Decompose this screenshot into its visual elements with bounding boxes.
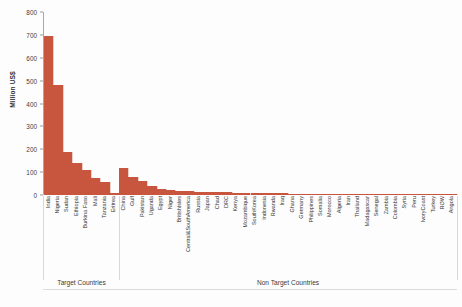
group-separator (457, 196, 458, 280)
x-tick-label: DRC (224, 196, 230, 208)
x-label-slot: Rwanda (269, 196, 278, 264)
x-tick-label: Kenya (234, 196, 240, 212)
x-label-slot: Russia (194, 196, 203, 264)
x-tick-label: Zambia (384, 196, 390, 214)
x-tick-label: Indonesia (262, 196, 268, 220)
x-tick-label: Germany (299, 196, 305, 219)
x-tick-label: Mali (93, 196, 99, 206)
x-tick-label: Syria (403, 196, 409, 209)
y-tick-label: 700 (26, 31, 37, 38)
x-label-slot: Gulf (128, 196, 137, 264)
x-tick-label: Uganda (149, 196, 155, 215)
x-tick-label: Pakistan (140, 196, 146, 217)
x-tick-label: Iran (346, 196, 352, 205)
x-tick-label: Ethiopia (74, 196, 80, 216)
x-tick-label: Sudan (65, 196, 71, 212)
x-label-slot: Peru (410, 196, 419, 264)
x-label-slot: Tanzania (100, 196, 109, 264)
group-underline (43, 289, 457, 290)
y-axis-title: Million US$ (9, 60, 16, 120)
x-label-slot: Thailand (354, 196, 363, 264)
group-label: Non Target Countries (257, 279, 319, 286)
x-label-slot: Senegal (373, 196, 382, 264)
x-label-slot: IvoryCoast (419, 196, 428, 264)
x-label-slot: Mozambique (241, 196, 250, 264)
x-tick-label: Mozambique (243, 196, 249, 228)
x-tick-label: Tanzania (102, 196, 108, 218)
y-tick-label: 500 (26, 77, 37, 84)
x-label-slot: ROW (438, 196, 447, 264)
x-tick-label: Rwanda (271, 196, 277, 216)
x-tick-label: Ghana (290, 196, 296, 213)
x-tick-label: Niger (168, 196, 174, 209)
x-label-slot: Algeria (335, 196, 344, 264)
x-label-slot: Egypt (157, 196, 166, 264)
x-label-slot: Iran (344, 196, 353, 264)
x-label-slot: Niger (166, 196, 175, 264)
x-label-slot: Ethiopia (72, 196, 81, 264)
x-tick-label: Turkey (431, 196, 437, 213)
bar (448, 194, 458, 195)
x-tick-label: Iraq (281, 196, 287, 205)
x-tick-label: Angola (450, 196, 456, 213)
x-label-slot: Philippines (307, 196, 316, 264)
x-label-slot: Somalia (316, 196, 325, 264)
x-label-slot: Colombia (391, 196, 400, 264)
plot-area (44, 12, 457, 195)
x-tick-label: ROW (440, 196, 446, 209)
y-tick-label: 200 (26, 146, 37, 153)
x-axis-category-labels: IndiaNigeriaSudanEthiopiaBurkina FasoMal… (44, 196, 457, 264)
x-label-slot: Germany (297, 196, 306, 264)
group-separator (43, 196, 44, 280)
x-label-slot: Turkey (429, 196, 438, 264)
x-tick-label: Japan (206, 196, 212, 211)
x-label-slot: DRC (222, 196, 231, 264)
x-label-slot: Nigeria (53, 196, 62, 264)
x-label-slot: Madagascar (363, 196, 372, 264)
x-tick-label: Colombia (393, 196, 399, 219)
y-tick-label: 0 (33, 192, 37, 199)
y-tick-label: 100 (26, 169, 37, 176)
x-label-slot: Iraq (279, 196, 288, 264)
x-tick-label: India (46, 196, 52, 208)
x-tick-label: Morocco (328, 196, 334, 217)
x-label-slot: Eritrea (110, 196, 119, 264)
x-tick-label: Eritrea (112, 196, 118, 212)
x-tick-label: Burkina Faso (83, 196, 89, 228)
group-label: Target Countries (57, 279, 105, 286)
x-label-slot: Sudan (63, 196, 72, 264)
x-label-slot: Chad (213, 196, 222, 264)
x-tick-label: Madagascar (365, 196, 371, 226)
x-tick-label: China (121, 196, 127, 210)
x-label-slot: Morocco (326, 196, 335, 264)
y-axis-tick-labels: 0100200300400500600700800 (16, 12, 40, 194)
x-tick-label: Chad (215, 196, 221, 209)
x-tick-label: SouthKorea (252, 196, 258, 225)
x-label-slot: Ghana (288, 196, 297, 264)
x-label-slot: Kenya (232, 196, 241, 264)
x-label-slot: Indonesia (260, 196, 269, 264)
x-label-slot: Angola (448, 196, 457, 264)
group-separator (119, 196, 120, 280)
x-label-slot: Syria (401, 196, 410, 264)
x-tick-label: Somalia (318, 196, 324, 216)
x-tick-label: Nigeria (55, 196, 61, 213)
x-tick-label: Gulf (130, 196, 136, 206)
x-label-slot: Mali (91, 196, 100, 264)
x-tick-label: Senegal (374, 196, 380, 216)
x-tick-label: BritishIsles (177, 196, 183, 223)
x-label-slot: Burkina Faso (82, 196, 91, 264)
x-tick-label: Russia (196, 196, 202, 213)
x-label-slot: Pakistan (138, 196, 147, 264)
x-tick-label: Peru (412, 196, 418, 208)
x-tick-label: Thailand (356, 196, 362, 217)
y-tick-label: 300 (26, 123, 37, 130)
x-label-slot: Zambia (382, 196, 391, 264)
bar-chart: Million US$ 0100200300400500600700800 In… (0, 0, 462, 307)
y-tick-label: 600 (26, 54, 37, 61)
x-label-slot: Central&SouthAmerica (185, 196, 194, 264)
x-tick-label: Philippines (309, 196, 315, 223)
x-label-slot: SouthKorea (251, 196, 260, 264)
y-tick-label: 400 (26, 100, 37, 107)
y-tick-label: 800 (26, 9, 37, 16)
